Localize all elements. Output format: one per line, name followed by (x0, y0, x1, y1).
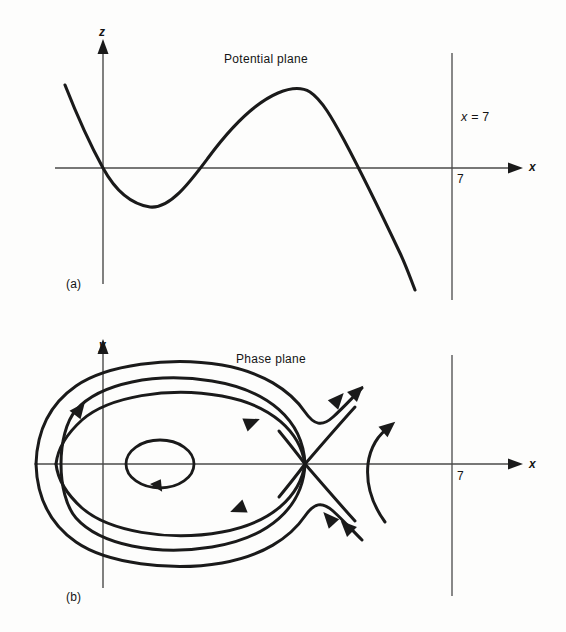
x-equals-7-label: x = 7 (461, 110, 489, 124)
inner-closed-orbit (126, 440, 194, 492)
panel-phase-plane: y x Phase plane 7 (b) (0, 316, 566, 632)
unstable-manifold-lower-right (305, 464, 355, 521)
outer-trajectory-lower (36, 464, 362, 566)
homoclinic-separatrix-upper (56, 392, 305, 464)
unstable-manifold-upper-right (305, 407, 355, 464)
x-axis-label: x (529, 457, 536, 471)
panel-b-caption: (b) (66, 590, 81, 604)
x-tick-label-7: 7 (457, 172, 464, 186)
panel-a-title: Potential plane (224, 52, 308, 66)
panel-potential-plane: z x Potential plane x = 7 7 (a) (0, 0, 566, 316)
outer-trajectory-upper (36, 362, 362, 464)
x-axis-label: x (529, 160, 536, 174)
z-axis-label: z (99, 25, 105, 39)
panel-b-title: Phase plane (236, 352, 306, 366)
homoclinic-separatrix-lower (56, 464, 305, 536)
y-axis-label: y (99, 338, 106, 352)
x-axis (35, 459, 523, 470)
x-tick-label-7: 7 (457, 469, 464, 483)
x-axis (55, 163, 523, 174)
right-open-trajectory (368, 427, 390, 522)
figure-container: z x Potential plane x = 7 7 (a) (0, 0, 566, 632)
potential-curve (65, 85, 415, 290)
panel-a-caption: (a) (66, 277, 81, 291)
potential-plane-plot (0, 0, 566, 316)
